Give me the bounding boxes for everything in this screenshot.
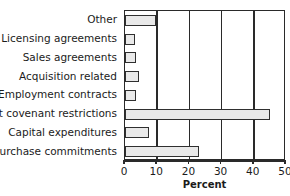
plot-area	[124, 10, 285, 160]
category-label: Employment contracts	[0, 85, 117, 103]
bar	[125, 146, 199, 157]
gridline-10	[156, 11, 158, 159]
x-tick	[252, 160, 254, 164]
bar	[125, 109, 270, 120]
bar	[125, 15, 156, 26]
x-tick-label: 50	[273, 165, 290, 177]
bar	[125, 71, 139, 82]
x-tick	[220, 160, 222, 164]
category-label: Sales agreements	[23, 48, 117, 66]
bar	[125, 34, 135, 45]
x-axis-line	[124, 160, 285, 162]
x-tick-label: 0	[112, 165, 136, 177]
x-tick	[155, 160, 157, 164]
gridline-30	[221, 11, 223, 159]
chart-title	[60, 0, 190, 3]
x-tick-label: 30	[209, 165, 233, 177]
category-label: Acquisition related	[19, 67, 117, 85]
category-label: Other	[87, 10, 117, 28]
x-tick	[284, 160, 286, 164]
x-axis-title: Percent	[124, 179, 285, 190]
category-label: Licensing agreements	[1, 29, 117, 47]
bar-chart: OtherLicensing agreementsSales agreement…	[0, 0, 290, 196]
gridline-40	[253, 11, 255, 159]
x-tick-label: 10	[144, 165, 168, 177]
x-tick	[188, 160, 190, 164]
bar	[125, 90, 136, 101]
category-label: Debt covenant restrictions	[0, 104, 117, 122]
category-label: Purchase commitments	[0, 142, 117, 160]
gridline-20	[189, 11, 191, 159]
x-tick-label: 40	[241, 165, 265, 177]
x-tick-label: 20	[176, 165, 200, 177]
x-tick	[123, 160, 125, 164]
category-label: Capital expenditures	[8, 123, 117, 141]
category-axis-labels: OtherLicensing agreementsSales agreement…	[0, 10, 121, 160]
bar	[125, 52, 136, 63]
bar	[125, 127, 149, 138]
